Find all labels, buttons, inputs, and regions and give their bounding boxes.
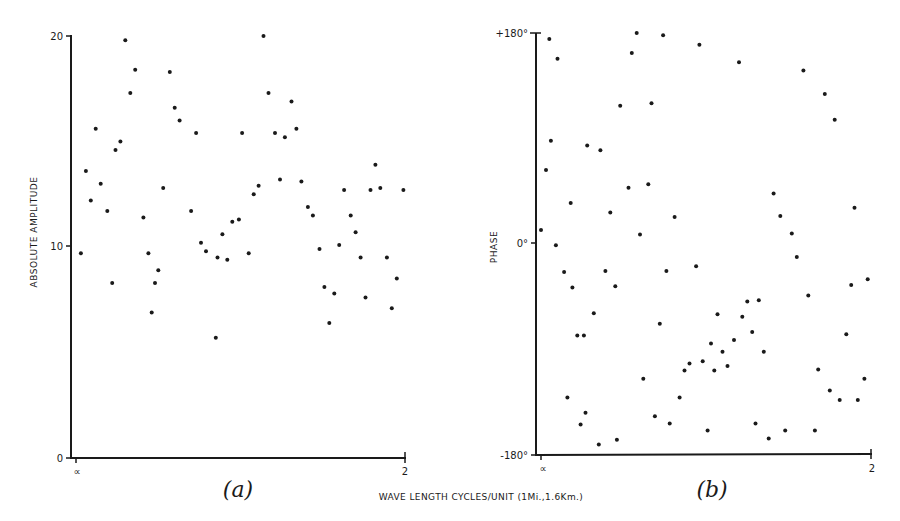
data-point: [554, 243, 558, 247]
data-point: [650, 101, 654, 105]
panel-b-y-tick-label-0: 0°: [517, 238, 528, 249]
data-point: [539, 228, 543, 232]
data-point: [364, 296, 368, 300]
data-point: [327, 321, 331, 325]
data-point: [89, 199, 93, 203]
data-point: [189, 209, 193, 213]
data-point: [105, 209, 109, 213]
data-point: [99, 182, 103, 186]
data-point: [114, 148, 118, 152]
data-point: [150, 310, 154, 314]
data-point: [230, 220, 234, 224]
data-point: [322, 285, 326, 289]
data-point: [283, 135, 287, 139]
data-point: [740, 315, 744, 319]
data-point: [828, 389, 832, 393]
data-point: [547, 37, 551, 41]
panel-a-y-tick-label-20: 20: [50, 31, 63, 42]
data-point: [306, 205, 310, 209]
data-point: [598, 148, 602, 152]
data-point: [673, 215, 677, 219]
data-point: [806, 294, 810, 298]
data-point: [214, 336, 218, 340]
data-point: [94, 127, 98, 131]
data-point: [354, 230, 358, 234]
data-point: [694, 264, 698, 268]
data-point: [816, 367, 820, 371]
data-point: [668, 421, 672, 425]
data-point: [178, 118, 182, 122]
data-point: [678, 396, 682, 400]
panel-b-y-tick-label-minus180: -180°: [500, 450, 528, 461]
data-point: [613, 284, 617, 288]
data-point: [790, 231, 794, 235]
data-point: [579, 423, 583, 427]
data-point: [592, 311, 596, 315]
data-point: [706, 428, 710, 432]
data-point: [664, 269, 668, 273]
data-point: [726, 364, 730, 368]
data-point: [342, 188, 346, 192]
panel-b-y-tick-label-plus180: +180°: [496, 28, 528, 39]
data-point: [750, 330, 754, 334]
data-point: [853, 206, 857, 210]
panel-b-label: (b): [696, 477, 727, 502]
data-point: [721, 350, 725, 354]
data-point: [833, 118, 837, 122]
data-point: [603, 269, 607, 273]
data-point: [401, 188, 405, 192]
shared-x-axis-label: WAVE LENGTH CYCLES/UNIT (1Mi.,1.6Km.): [379, 492, 583, 502]
data-point: [569, 201, 573, 205]
data-point: [813, 428, 817, 432]
data-point: [84, 169, 88, 173]
panel-b-points: [539, 31, 870, 446]
data-point: [653, 414, 657, 418]
data-point: [133, 68, 137, 72]
data-point: [225, 258, 229, 262]
data-point: [778, 214, 782, 218]
data-point: [732, 338, 736, 342]
data-point: [240, 131, 244, 135]
data-point: [390, 306, 394, 310]
data-point: [161, 186, 165, 190]
data-point: [318, 247, 322, 251]
data-point: [795, 255, 799, 259]
figure: 20 10 0 ∝ 2 ABSOLUTE AMPLITUDE (a) +180°…: [0, 0, 900, 521]
data-point: [754, 421, 758, 425]
data-point: [618, 104, 622, 108]
data-point: [646, 182, 650, 186]
data-point: [585, 144, 589, 148]
data-point: [630, 51, 634, 55]
data-point: [118, 140, 122, 144]
data-point: [128, 91, 132, 95]
data-point: [562, 270, 566, 274]
panel-a-x-tick-label-end: 2: [402, 466, 408, 477]
data-point: [216, 256, 220, 260]
panel-a-y-axis-label: ABSOLUTE AMPLITUDE: [29, 177, 39, 288]
data-point: [278, 178, 282, 182]
data-point: [575, 333, 579, 337]
data-point: [153, 281, 157, 285]
data-point: [582, 333, 586, 337]
data-point: [349, 213, 353, 217]
data-point: [584, 411, 588, 415]
panel-b-y-axis-label: PHASE: [489, 231, 499, 263]
data-point: [615, 438, 619, 442]
data-point: [267, 91, 271, 95]
data-point: [856, 398, 860, 402]
data-point: [168, 70, 172, 74]
data-point: [237, 218, 241, 222]
data-point: [385, 256, 389, 260]
data-point: [146, 251, 150, 255]
data-point: [757, 298, 761, 302]
data-point: [638, 233, 642, 237]
data-point: [294, 127, 298, 131]
data-point: [299, 180, 303, 184]
panel-b-x-tick-label-start: ∝: [539, 463, 546, 474]
panel-a: 20 10 0 ∝ 2 ABSOLUTE AMPLITUDE (a): [29, 31, 408, 502]
data-point: [173, 106, 177, 110]
data-point: [257, 184, 261, 188]
data-point: [862, 377, 866, 381]
data-point: [262, 34, 266, 38]
panel-a-label: (a): [223, 477, 253, 502]
